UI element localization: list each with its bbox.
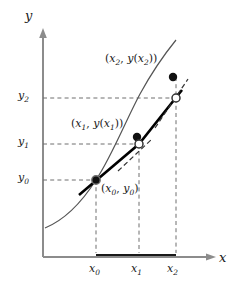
x-tick-label-x2: x2	[167, 262, 178, 277]
paren-close-1: )	[119, 117, 123, 130]
annotation-point-x2: (x2, y(x2))	[105, 52, 157, 67]
y-axis	[39, 28, 47, 257]
point-x2-marker	[169, 73, 177, 81]
approx-x1-marker	[135, 140, 143, 148]
y-tick-label-y1: y1	[18, 135, 29, 150]
y-tick-label-y2: y2	[18, 89, 29, 104]
plot-svg	[0, 0, 237, 292]
annotation-point-x1: (x1, y(x1))	[71, 117, 123, 132]
y-tick-label-y0: y0	[18, 171, 29, 186]
approx-x2-marker	[172, 94, 180, 102]
figure-canvas: y x y2 y1 y0 x0 x1 x2 (x2, y(x2)) (x1, y…	[0, 0, 237, 292]
point-x0-marker	[92, 176, 100, 184]
x-tick-label-x0: x0	[89, 262, 100, 277]
exact-solution-curve	[45, 40, 176, 228]
paren-close-0: )	[134, 182, 138, 195]
x0-sub: 0	[95, 268, 100, 277]
x-axis-label: x	[219, 250, 226, 265]
y-axis-label: y	[25, 8, 32, 23]
paren-close-2: )	[153, 52, 157, 65]
y0-sub: 0	[24, 177, 29, 186]
y1-sub: 1	[24, 141, 29, 150]
x2-sub: 2	[173, 268, 178, 277]
x-tick-label-x1: x1	[131, 262, 142, 277]
x1-sub: 1	[137, 268, 142, 277]
annotation-point-x0: (x0, y0)	[101, 182, 139, 197]
y2-sub: 2	[24, 95, 29, 104]
vertical-guide-lines	[96, 77, 176, 253]
